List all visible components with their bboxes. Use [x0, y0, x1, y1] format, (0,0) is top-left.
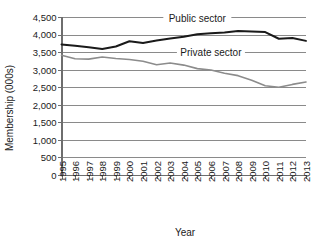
x-axis-tick-label: 2001 [138, 161, 149, 182]
y-axis-title: Membership (000s) [4, 65, 15, 151]
x-axis-title: Year [175, 227, 196, 238]
y-axis-tick-label: 1,500 [33, 117, 57, 128]
x-axis-tick-label: 2000 [124, 161, 135, 182]
y-axis-tick-label: 4,500 [33, 12, 57, 23]
series-label-private-sector: Private sector [180, 47, 242, 58]
x-axis-tick-label: 1997 [84, 161, 95, 182]
x-axis-tick-label: 2002 [152, 161, 163, 182]
x-axis-tick-label: 2003 [165, 161, 176, 182]
y-axis-tick-label: 1,000 [33, 135, 57, 146]
y-axis-tick-label: 3,000 [33, 65, 57, 76]
y-axis-tick-label: 4,000 [33, 29, 57, 40]
series-line-private-sector [62, 55, 307, 87]
y-axis-tick-label: 2,000 [33, 100, 57, 111]
y-axis-tick-labels: 4,5004,0003,5003,0002,5002,0001,5001,000… [33, 12, 62, 181]
x-axis-tick-label: 1996 [70, 161, 81, 182]
x-axis-tick-label: 2011 [274, 162, 285, 182]
chart-container: 4,5004,0003,5003,0002,5002,0001,5001,000… [0, 0, 319, 242]
x-axis-tick-label: 2012 [287, 161, 298, 182]
x-axis-tick-label: 1995 [57, 161, 68, 182]
x-axis-tick-label: 2004 [179, 161, 190, 182]
gridlines [62, 18, 307, 158]
x-axis-tick-label: 2005 [192, 161, 203, 182]
y-axis-tick-label: 2,500 [33, 82, 57, 93]
line-chart: 4,5004,0003,5003,0002,5002,0001,5001,000… [0, 0, 319, 242]
y-axis-tick-label: 3,500 [33, 47, 57, 58]
x-axis-tick-label: 2006 [206, 161, 217, 182]
series-annotations: Public sectorPrivate sector [163, 13, 245, 58]
x-axis-tick-label: 2010 [260, 161, 271, 182]
x-axis-tick-labels: 1995199619971998199920002001200220032004… [57, 161, 312, 182]
x-axis-tick-label: 2009 [247, 161, 258, 182]
y-axis-tick-label: 500 [41, 152, 57, 163]
x-axis-tick-label: 2013 [301, 161, 312, 182]
x-axis-tick-label: 2008 [233, 161, 244, 182]
data-series [62, 31, 307, 87]
y-axis-tick-label: 0 [51, 170, 56, 181]
x-axis-tick-label: 2007 [220, 161, 231, 182]
axis-lines [62, 17, 307, 176]
x-axis-tick-label: 1998 [97, 161, 108, 182]
x-axis-tick-label: 1999 [111, 161, 122, 182]
series-label-public-sector: Public sector [169, 13, 227, 24]
